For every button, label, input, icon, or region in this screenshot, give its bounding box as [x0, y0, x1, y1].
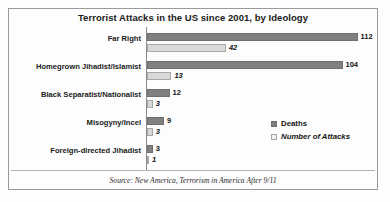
bar-value-deaths: 9: [167, 116, 171, 125]
legend-label-number-of-attacks: Number of Attacks: [281, 132, 350, 141]
chart-title: Terrorist Attacks in the US since 2001, …: [9, 12, 377, 23]
category-label: Black Separatist/Nationalist: [11, 90, 141, 99]
legend-item-deaths: Deaths: [271, 117, 381, 130]
category-label: Far Right: [11, 34, 141, 43]
bar-attacks: [147, 100, 153, 108]
bar-value-attacks: 3: [156, 99, 160, 108]
legend-swatch-deaths-icon: [271, 121, 277, 127]
bar-value-deaths: 112: [361, 32, 373, 41]
category-group: Homegrown Jihadist/Islamist10413: [11, 59, 375, 87]
bar-deaths: [147, 145, 153, 153]
bar-attacks: [147, 72, 171, 80]
category-group: Foreign-directed Jihadist31: [11, 143, 375, 171]
bar-value-deaths: 12: [173, 88, 181, 97]
category-group: Far Right11242: [11, 31, 375, 59]
source-note: Source: New America, Terrorism in Americ…: [9, 176, 377, 185]
bar-value-deaths: 3: [156, 144, 160, 153]
bar-deaths: [147, 117, 164, 125]
category-group: Black Separatist/Nationalist123: [11, 87, 375, 115]
bar-value-attacks: 1: [152, 155, 156, 164]
legend-label-deaths: Deaths: [281, 119, 307, 128]
legend-item-number-of-attacks: Number of Attacks: [271, 130, 381, 143]
bar-value-attacks: 3: [156, 127, 160, 136]
bar-attacks: [147, 128, 153, 136]
bar-attacks: [147, 44, 226, 52]
category-label: Homegrown Jihadist/Islamist: [11, 62, 141, 71]
plot-area: Far Right11242Homegrown Jihadist/Islamis…: [11, 27, 375, 171]
category-label: Foreign-directed Jihadist: [11, 146, 141, 155]
category-label: Misogyny/Incel: [11, 118, 141, 127]
chart-frame: Terrorist Attacks in the US since 2001, …: [8, 8, 378, 190]
chart-legend: Deaths Number of Attacks: [271, 117, 381, 143]
bar-value-attacks: 42: [229, 43, 237, 52]
bar-deaths: [147, 61, 343, 69]
bar-value-deaths: 104: [346, 60, 359, 69]
bar-attacks: [147, 156, 149, 164]
bar-value-attacks: 13: [174, 71, 182, 80]
bar-deaths: [147, 89, 170, 97]
chart-screenshot: Terrorist Attacks in the US since 2001, …: [0, 0, 390, 202]
legend-swatch-attacks-icon: [271, 134, 277, 140]
bar-deaths: [147, 33, 358, 41]
